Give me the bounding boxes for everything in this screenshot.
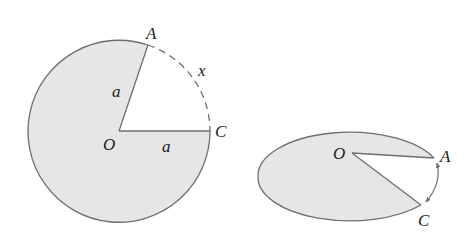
label-x: x: [197, 61, 206, 80]
label-radius-oc: a: [162, 137, 171, 156]
diagram-canvas: A x C O a a O A C: [0, 0, 476, 244]
label-radius-oa: a: [112, 82, 121, 101]
label-o: O: [103, 135, 115, 154]
label-a-point: A: [145, 24, 157, 43]
label-c-right: C: [418, 211, 430, 230]
left-figure: A x C O a a: [28, 24, 227, 222]
double-arrow: [426, 163, 438, 202]
label-a-right: A: [439, 147, 451, 166]
label-o-right: O: [333, 144, 345, 163]
label-c-point: C: [215, 122, 227, 141]
arc-x-dashed: [148, 45, 210, 131]
right-figure: O A C: [258, 132, 451, 230]
